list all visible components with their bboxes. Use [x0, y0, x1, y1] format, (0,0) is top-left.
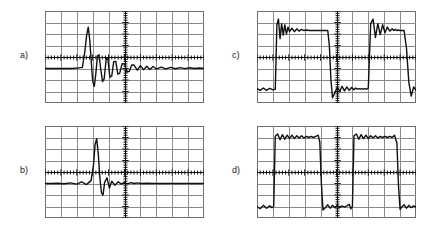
- center-axis-ticks-b: [45, 126, 204, 218]
- oscilloscope-figure: a)b)c)d): [0, 0, 434, 230]
- panel-label-d: d): [232, 165, 240, 175]
- scope-screen-d: [257, 126, 416, 218]
- panel-label-c: c): [232, 50, 240, 60]
- center-axis-ticks-d: [257, 126, 416, 218]
- scope-screen-b: [45, 126, 204, 218]
- scope-screen-a: [45, 11, 204, 103]
- scope-screen-c: [257, 11, 416, 103]
- panel-label-b: b): [20, 165, 28, 175]
- panel-label-a: a): [20, 50, 28, 60]
- center-axis-ticks-a: [45, 11, 204, 103]
